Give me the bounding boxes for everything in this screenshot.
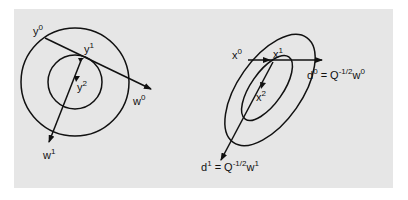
outer-circle <box>21 28 129 136</box>
inner-circle <box>48 55 102 109</box>
label-x1: x1 <box>273 47 283 60</box>
label-w1: w1 <box>43 148 55 161</box>
label-w0: w0 <box>133 94 145 107</box>
outer-ellipse <box>207 19 333 161</box>
label-d1-equation: d1 = Q-1/2w1 <box>201 160 259 173</box>
label-x2: x2 <box>256 90 266 103</box>
label-y2: y2 <box>77 80 87 93</box>
label-d0-equation: d0 = Q-1/2w0 <box>307 68 365 81</box>
label-x0: x0 <box>232 48 242 61</box>
label-y1: y1 <box>84 42 94 55</box>
label-y0: y0 <box>33 24 43 37</box>
arrow-w0 <box>45 38 151 89</box>
